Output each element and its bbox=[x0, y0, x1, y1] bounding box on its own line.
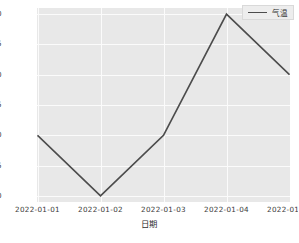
y-tick-label-2: 16.0 bbox=[0, 130, 2, 139]
x-axis-label: 日期 bbox=[0, 217, 298, 229]
data-line-series bbox=[37, 8, 290, 202]
chart-legend: 气温 bbox=[242, 5, 294, 20]
y-tick-label-6: 18.0 bbox=[0, 9, 2, 18]
y-tick-label-0: 15.0 bbox=[0, 191, 2, 200]
plot-area bbox=[37, 8, 290, 202]
legend-label-temperature: 气温 bbox=[272, 7, 288, 18]
y-tick-label-3: 16.5 bbox=[0, 100, 2, 109]
x-tick-label-4: 2022-01-05 bbox=[252, 205, 299, 214]
y-tick-label-4: 17.0 bbox=[0, 70, 2, 79]
y-tick-label-1: 15.5 bbox=[0, 161, 2, 170]
series-temperature-line bbox=[38, 14, 290, 196]
chart-figure: 15.015.516.016.517.017.518.0 2022-01-012… bbox=[0, 0, 298, 243]
y-tick-label-5: 17.5 bbox=[0, 39, 2, 48]
legend-line-swatch-icon bbox=[248, 12, 267, 13]
